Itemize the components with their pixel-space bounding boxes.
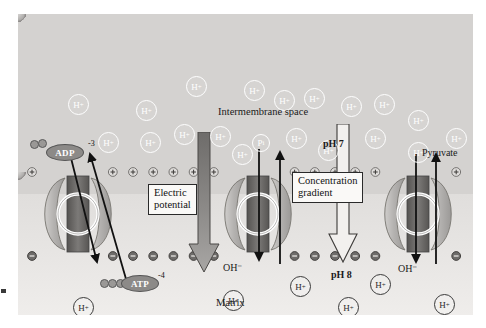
proton-matrix-3: H+ — [338, 297, 359, 315]
mitochondrial-membrane-diagram: H+H+H+H+H+H+H+H+H+H+H+H+H+H+H+H+H+H+H+H+… — [0, 0, 486, 328]
proton-intermembrane-3: H+ — [244, 80, 265, 101]
adp-label: ADP — [55, 148, 74, 158]
proton-matrix-4: H+ — [370, 274, 391, 295]
adp-charge: -3 — [88, 139, 95, 148]
hydroxide-label-right: OH⁻ — [398, 263, 417, 274]
proton-intermembrane-16: H+ — [365, 128, 386, 149]
atp-charge: -4 — [158, 271, 165, 280]
hydroxide-label-left: OH⁻ — [223, 262, 242, 273]
matrix-label: Matrix — [216, 297, 245, 308]
pyruvate-label: Pyruvate — [422, 147, 458, 158]
adp-phosphate-group-2 — [38, 139, 47, 148]
proton-intermembrane-12: H+ — [210, 126, 231, 147]
adp-molecule: ADP — [46, 144, 84, 161]
concentration-gradient-callout: Concentration gradient — [292, 172, 363, 203]
proton-intermembrane-10: H+ — [140, 132, 161, 153]
proton-intermembrane-8: H+ — [408, 110, 429, 131]
concentration-gradient-line1: Concentration — [298, 175, 357, 187]
proton-matrix-2: H+ — [290, 276, 311, 297]
proton-intermembrane-0: H+ — [68, 94, 89, 115]
phosphate-ion: Pi — [252, 134, 270, 152]
electric-potential-line2: potential — [154, 199, 191, 211]
proton-intermembrane-14: H+ — [286, 128, 307, 149]
proton-intermembrane-13: H+ — [232, 144, 253, 165]
ph8-label: pH 8 — [331, 269, 352, 280]
concentration-gradient-line2: gradient — [298, 187, 357, 199]
proton-intermembrane-7: H+ — [374, 94, 395, 115]
proton-intermembrane-18: H+ — [446, 128, 467, 149]
intermembrane-space-label: Intermembrane space — [218, 106, 308, 117]
proton-intermembrane-11: H+ — [174, 124, 195, 145]
proton-intermembrane-9: H+ — [98, 132, 119, 153]
atp-molecule: ATP — [121, 275, 159, 292]
proton-matrix-0: H+ — [73, 297, 94, 315]
ph7-label: pH 7 — [323, 138, 344, 149]
scan-artifact — [1, 289, 6, 293]
proton-matrix-5: H+ — [434, 294, 455, 315]
phosphate-subscript: i — [263, 139, 265, 147]
electric-potential-line1: Electric — [154, 187, 191, 199]
proton-intermembrane-2: H+ — [186, 76, 207, 97]
proton-intermembrane-6: H+ — [341, 96, 362, 117]
atp-label: ATP — [131, 279, 149, 289]
proton-intermembrane-1: H+ — [136, 100, 157, 121]
diagram-plate: H+H+H+H+H+H+H+H+H+H+H+H+H+H+H+H+H+H+H+H+… — [18, 14, 473, 315]
electric-potential-callout: Electric potential — [148, 184, 197, 215]
